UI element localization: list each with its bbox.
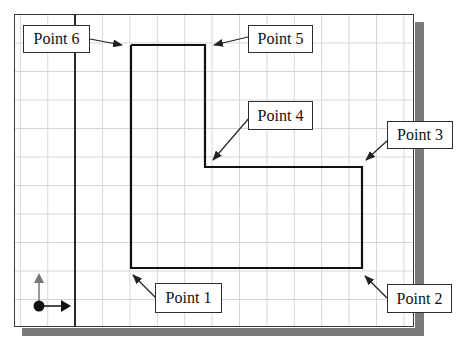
label-point-6: Point 6 [23,25,90,53]
leader-arrow-point-2 [365,276,387,298]
leader-arrow-point-4 [213,117,250,160]
ucs-axes-icon [34,273,72,312]
label-point-4: Point 4 [248,101,313,130]
label-point-2: Point 2 [387,284,452,313]
l-shape-outline [131,45,362,268]
label-point-1: Point 1 [155,283,222,313]
leader-arrow-point-6 [90,39,122,45]
leader-arrow-point-1 [133,275,156,298]
label-point-3: Point 3 [387,121,453,149]
leader-arrow-point-3 [366,140,388,160]
label-point-5: Point 5 [248,25,313,53]
leader-arrow-point-5 [214,37,248,45]
